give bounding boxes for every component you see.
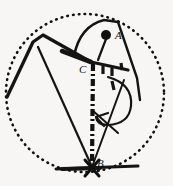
- dotted-boundary-circle: [6, 14, 164, 172]
- upper-thick-polyline: [7, 35, 128, 97]
- point-a-label: A: [115, 30, 122, 41]
- point-a-marker: [101, 30, 111, 40]
- segment-c-to-b: [92, 64, 93, 163]
- point-c-label: C: [79, 64, 86, 75]
- canopy-arc-over-a: [74, 20, 118, 56]
- figure-canvas: A B C: [0, 0, 173, 186]
- point-b-label: B: [97, 158, 104, 169]
- segment-a-to-c: [98, 39, 106, 60]
